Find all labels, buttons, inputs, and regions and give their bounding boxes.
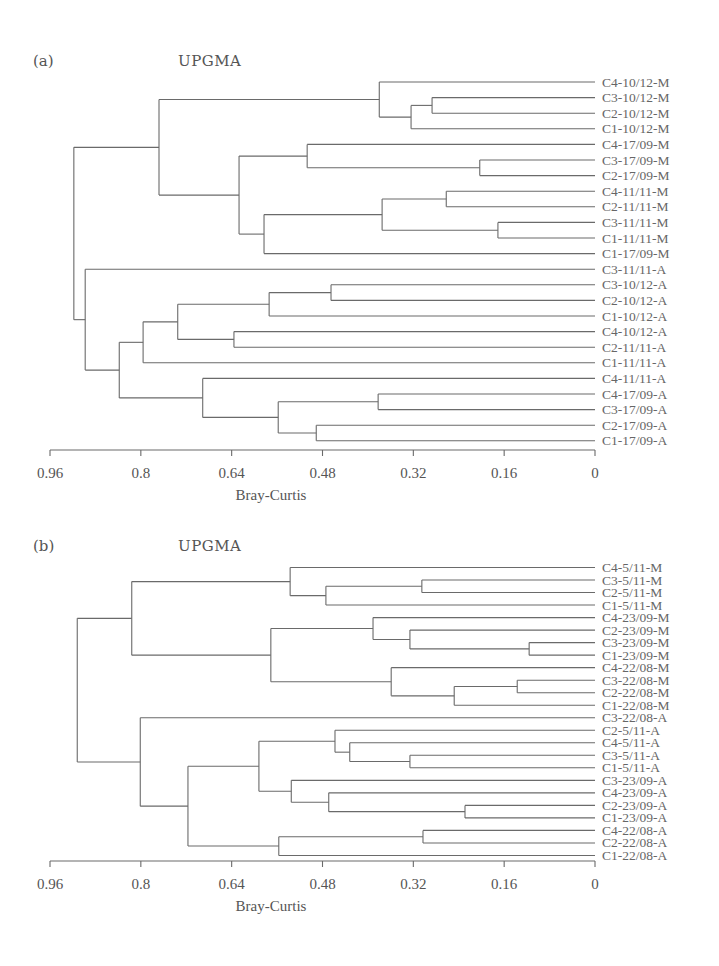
x-axis-title: Bray-Curtis (236, 898, 307, 914)
panel-b: (b) UPGMA C4-5/11-MC3-5/11-MC2-5/11-MC1-… (0, 0, 719, 966)
x-tick-label: 0.32 (400, 876, 426, 892)
dendrogram-b: C4-5/11-MC3-5/11-MC2-5/11-MC1-5/11-MC4-2… (0, 0, 719, 966)
x-tick-label: 0.8 (131, 876, 150, 892)
x-tick-label: 0 (591, 876, 599, 892)
x-tick-label: 0.64 (219, 876, 246, 892)
x-tick-label: 0.96 (37, 876, 64, 892)
x-tick-label: 0.48 (309, 876, 335, 892)
x-tick-label: 0.16 (491, 876, 518, 892)
leaf-label: C1-22/08-A (602, 848, 667, 863)
